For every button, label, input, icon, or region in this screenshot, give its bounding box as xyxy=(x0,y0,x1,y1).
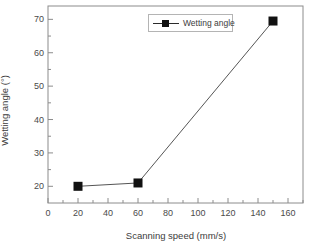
x-tick-label: 140 xyxy=(250,208,265,218)
plot-frame xyxy=(48,6,303,203)
legend: Wetting angle xyxy=(148,14,233,32)
legend-label-wetting-angle: Wetting angle xyxy=(183,18,235,28)
legend-square-marker-icon xyxy=(162,20,169,27)
x-tick-label: 80 xyxy=(163,208,173,218)
y-tick-label: 30 xyxy=(24,148,44,158)
x-tick-label: 0 xyxy=(45,208,50,218)
legend-sample-wetting-angle xyxy=(153,17,179,29)
x-tick-label: 160 xyxy=(280,208,295,218)
y-tick-label: 40 xyxy=(24,115,44,125)
x-tick-label: 100 xyxy=(190,208,205,218)
data-point-marker xyxy=(74,182,83,191)
chart-figure: 020406080100120140160203040506070 Scanni… xyxy=(0,0,311,247)
x-axis-title: Scanning speed (mm/s) xyxy=(126,230,226,241)
y-tick-label: 50 xyxy=(24,81,44,91)
series-markers-wetting-angle xyxy=(74,17,278,191)
y-tick-label: 70 xyxy=(24,14,44,24)
x-tick-label: 20 xyxy=(73,208,83,218)
x-tick-label: 40 xyxy=(103,208,113,218)
x-tick-label: 120 xyxy=(220,208,235,218)
y-axis-title: Wetting angle (°) xyxy=(0,75,10,146)
data-point-marker xyxy=(269,17,278,26)
series-line-wetting-angle xyxy=(78,21,273,186)
x-tick-label: 60 xyxy=(133,208,143,218)
y-tick-label: 20 xyxy=(24,181,44,191)
y-tick-label: 60 xyxy=(24,48,44,58)
x-axis-major-ticks xyxy=(48,198,288,203)
data-point-marker xyxy=(134,178,143,187)
